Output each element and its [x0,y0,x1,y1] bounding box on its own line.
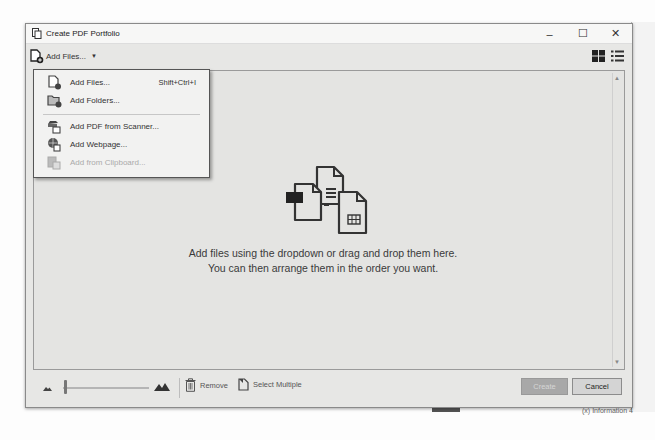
cancel-button[interactable]: Cancel [572,378,622,395]
scroll-down-arrow-icon[interactable]: ▼ [614,359,620,365]
empty-state-line-1: Add files using the dropdown or drag and… [34,246,612,261]
menu-item-shortcut: Shift+Ctrl+I [158,78,196,87]
menu-item-label: Add Files... [70,78,110,87]
toolbar-divider [179,378,180,398]
thumbnail-size-slider[interactable] [63,387,149,389]
list-view-icon[interactable] [611,50,624,62]
select-multiple-icon [238,378,249,391]
add-files-dropdown-button[interactable]: Add Files... ▼ [30,48,97,64]
portfolio-app-icon [32,28,42,39]
empty-state-message: Add files using the dropdown or drag and… [34,246,612,276]
menu-item-add-folders[interactable]: Add Folders... [34,92,209,109]
remove-label: Remove [200,381,228,390]
empty-state-line-2: You can then arrange them in the order y… [34,261,612,276]
add-files-dropdown-menu: Add Files... Shift+Ctrl+I Add Folders...… [33,69,210,178]
scanner-icon [47,119,62,134]
window-title: Create PDF Portfolio [46,29,120,38]
grid-view-icon[interactable] [592,50,605,62]
menu-item-label: Add from Clipboard... [70,158,146,167]
webpage-icon [47,137,62,152]
slider-thumb[interactable] [64,380,67,394]
window-controls: – ☐ ✕ [533,24,632,43]
select-multiple-button[interactable]: Select Multiple [238,378,302,391]
add-file-icon [47,75,62,90]
vertical-scrollbar[interactable]: ▲ ▼ [612,73,622,367]
view-mode-toggles [592,50,624,62]
menu-item-label: Add Webpage... [70,140,127,149]
create-button[interactable]: Create [521,378,568,395]
zoom-in-mountain-icon[interactable] [154,382,170,391]
menu-separator [43,114,200,115]
close-button[interactable]: ✕ [599,24,632,43]
title-bar[interactable]: Create PDF Portfolio – ☐ ✕ [26,24,632,44]
add-files-label: Add Files... [46,52,86,61]
menu-item-add-webpage[interactable]: Add Webpage... [34,136,209,153]
select-multiple-label: Select Multiple [253,380,302,389]
remove-button[interactable]: Remove [185,378,228,392]
background-window-edge [631,22,655,412]
maximize-button[interactable]: ☐ [566,24,599,43]
portfolio-files-illustration [282,164,378,236]
minimize-button[interactable]: – [533,24,566,43]
zoom-out-mountain-icon[interactable] [43,385,52,391]
bottom-bar: Remove Select Multiple Create Cancel [26,369,632,406]
clipboard-icon [47,155,62,170]
toolbar: Add Files... ▼ [26,44,632,68]
trash-icon [185,378,196,392]
menu-item-label: Add Folders... [70,96,120,105]
add-folder-icon [47,93,62,108]
background-footer-text: (x) Information 4 [582,407,633,414]
chevron-down-icon: ▼ [91,53,97,59]
menu-item-add-files[interactable]: Add Files... Shift+Ctrl+I [34,74,209,91]
menu-item-label: Add PDF from Scanner... [70,122,159,131]
scroll-up-arrow-icon[interactable]: ▲ [614,75,620,81]
menu-item-add-from-clipboard[interactable]: Add from Clipboard... [34,154,209,171]
menu-item-add-pdf-from-scanner[interactable]: Add PDF from Scanner... [34,118,209,135]
add-file-icon [30,49,44,64]
